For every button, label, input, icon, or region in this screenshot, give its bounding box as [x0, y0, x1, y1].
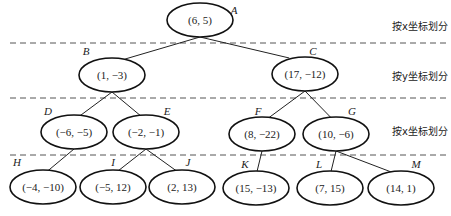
tree-node-d: (−6, −5)D [41, 105, 107, 149]
node-value: (2, 13) [167, 181, 197, 194]
node-letter-label: D [43, 105, 52, 117]
node-letter-label: H [12, 156, 22, 168]
node-letter-label: B [83, 45, 90, 57]
node-letter-label: F [254, 105, 262, 117]
node-value: (1, −3) [97, 69, 127, 82]
tree-node-g: (10, −6)G [303, 105, 369, 151]
node-value: (−6, −5) [56, 126, 93, 139]
node-letter-label: E [163, 105, 171, 117]
tree-edge [146, 149, 177, 171]
kd-tree-diagram: (6, 5)A(1, −3)B(17, −12)C(−6, −5)D(−2, −… [0, 0, 451, 216]
tree-edge [112, 92, 141, 116]
split-axis-label: 按y坐标划分 [392, 70, 448, 82]
node-value: (15, −13) [235, 182, 276, 195]
node-value: (6, 5) [188, 14, 212, 27]
tree-edges [48, 37, 392, 172]
tree-node-i: (−5, 12)I [80, 156, 146, 204]
node-value: (−4, −10) [22, 181, 64, 194]
split-axis-label: 按x坐标划分 [392, 125, 448, 137]
tree-node-c: (17, −12)C [272, 45, 338, 91]
tree-edge [80, 92, 112, 116]
tree-edge [268, 91, 305, 118]
node-value: (14, 1) [386, 182, 416, 195]
tree-node-j: (2, 13)J [149, 156, 215, 204]
tree-node-k: (15, −13)K [223, 158, 289, 205]
tree-node-e: (−2, −1)E [113, 105, 179, 149]
tree-edge [48, 149, 74, 171]
node-letter-label: A [230, 4, 238, 16]
node-value: (−2, −1) [128, 126, 165, 139]
node-letter-label: M [410, 158, 421, 170]
tree-node-a: (6, 5)A [167, 3, 238, 37]
tree-edge [118, 149, 146, 171]
node-letter-label: J [186, 156, 192, 168]
split-axis-labels: 按x坐标划分按y坐标划分按x坐标划分 [392, 20, 448, 137]
node-value: (10, −6) [318, 128, 354, 141]
tree-node-h: (−4, −10)H [10, 156, 76, 204]
tree-edge [305, 91, 331, 118]
tree-edge [125, 37, 200, 59]
node-letter-label: K [240, 158, 249, 170]
tree-edge [257, 151, 262, 172]
node-letter-label: C [309, 45, 317, 57]
tree-edge [336, 151, 391, 172]
node-value: (−5, 12) [95, 181, 131, 194]
node-letter-label: G [348, 105, 356, 117]
node-letter-label: I [110, 156, 116, 168]
node-letter-label: L [315, 158, 322, 170]
tree-nodes: (6, 5)A(1, −3)B(17, −12)C(−6, −5)D(−2, −… [10, 3, 434, 205]
tree-node-f: (8, −22)F [229, 105, 295, 151]
tree-edge [200, 37, 289, 58]
tree-node-b: (1, −3)B [79, 45, 145, 92]
tree-node-l: (7, 15)L [297, 158, 363, 205]
tree-node-m: (14, 1)M [368, 158, 434, 205]
tree-edge [331, 151, 336, 172]
split-axis-label: 按x坐标划分 [392, 20, 448, 32]
node-value: (7, 15) [315, 182, 345, 195]
node-value: (17, −12) [284, 68, 325, 81]
node-value: (8, −22) [244, 128, 280, 141]
